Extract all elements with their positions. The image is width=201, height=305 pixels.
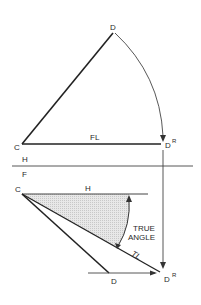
label-d-top: D [110, 23, 116, 32]
label-h-fold: H [22, 155, 28, 164]
revolution-arc [115, 33, 163, 136]
projection-arrowhead-icon [160, 262, 166, 269]
label-tl: TL [130, 249, 143, 261]
label-c-front: C [15, 185, 21, 194]
label-true-angle-1: TRUE [133, 224, 155, 233]
line-cd-top [22, 33, 113, 144]
label-fl: FL [90, 133, 100, 142]
label-dr-top-sup: R [172, 138, 177, 144]
label-dr-front: D [164, 275, 170, 284]
label-f-fold: F [22, 170, 27, 179]
revolution-arrowhead-icon [150, 271, 157, 276]
label-d-front: D [111, 277, 117, 286]
label-c-top: C [14, 143, 20, 152]
label-h-front: H [85, 184, 91, 193]
label-dr-front-sup: R [172, 272, 177, 278]
label-true-angle-2: ANGLE [128, 233, 155, 242]
descriptive-geometry-diagram: D C D R FL H F C H TRUE ANGLE TL D D R [0, 0, 201, 305]
true-angle-shaded-region [22, 194, 130, 248]
label-dr-top: D [165, 141, 171, 150]
